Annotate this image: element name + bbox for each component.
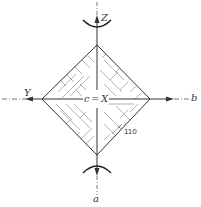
axis-label-a: a: [93, 194, 99, 204]
face-index-label: 110: [124, 128, 137, 136]
arrow-up-icon: [95, 15, 100, 23]
axis-label-b: b: [191, 93, 197, 103]
axis-label-y: Y: [24, 88, 31, 98]
arrow-right-icon: [166, 97, 174, 102]
center-label: c = X: [83, 94, 109, 104]
arrow-down-icon: [95, 168, 100, 176]
axis-label-z: Z: [101, 13, 108, 23]
